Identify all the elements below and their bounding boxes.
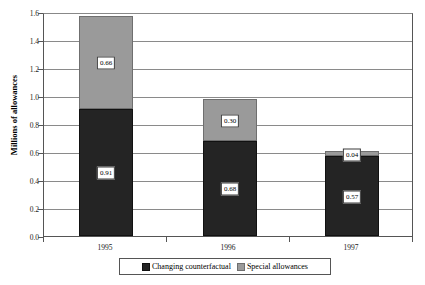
y-tick-label: 0.4 <box>13 177 39 186</box>
y-tick-label: 1.6 <box>13 9 39 18</box>
y-tick-label: 0.6 <box>13 149 39 158</box>
x-tick-label-1995: 1995 <box>75 243 135 252</box>
bar-value-label: 0.91 <box>97 166 115 179</box>
legend-label: Special allowances <box>247 262 308 271</box>
y-tick-label: 0.0 <box>13 233 39 242</box>
bar-segment-special-allowances[interactable]: 0.66 <box>79 16 133 108</box>
plot-area: 0.91 0.66 0.68 0.30 0.57 0.04 <box>43 13 413 237</box>
legend-swatch-gray-icon <box>237 263 245 271</box>
bar-group-1996[interactable]: 0.68 0.30 <box>203 12 257 236</box>
y-tick-label: 1.4 <box>13 37 39 46</box>
bar-value-label: 0.30 <box>221 114 239 127</box>
x-tick-label-1996: 1996 <box>198 243 258 252</box>
bar-segment-changing-counterfactual[interactable]: 0.91 <box>79 109 133 236</box>
x-tick-mark <box>289 237 290 242</box>
legend-label: Changing counterfactual <box>152 262 231 271</box>
x-tick-mark <box>412 237 413 242</box>
bar-group-1995[interactable]: 0.91 0.66 <box>79 12 133 236</box>
bar-segment-changing-counterfactual[interactable]: 0.57 <box>325 156 379 236</box>
bar-segment-special-allowances[interactable]: 0.30 <box>203 99 257 141</box>
x-tick-mark <box>43 237 44 242</box>
bar-value-label: 0.04 <box>343 148 361 161</box>
y-axis-title: Millions of allowances <box>9 35 19 195</box>
y-tick-label: 0.2 <box>13 205 39 214</box>
legend-item-special-allowances[interactable]: Special allowances <box>237 262 308 271</box>
chart-legend: Changing counterfactual Special allowanc… <box>119 258 331 275</box>
x-tick-label-1997: 1997 <box>321 243 381 252</box>
bar-value-label: 0.68 <box>221 182 239 195</box>
bar-segment-special-allowances[interactable]: 0.04 <box>325 151 379 157</box>
y-tick-label: 1.2 <box>13 65 39 74</box>
stacked-bar-chart: Millions of allowances 1.6 1.4 1.2 1.0 0… <box>0 0 425 285</box>
y-tick-label: 1.0 <box>13 93 39 102</box>
x-tick-mark <box>166 237 167 242</box>
bar-segment-changing-counterfactual[interactable]: 0.68 <box>203 141 257 236</box>
legend-swatch-dark-icon <box>142 263 150 271</box>
bar-value-label: 0.57 <box>343 191 361 204</box>
y-tick-label: 0.8 <box>13 121 39 130</box>
bar-group-1997[interactable]: 0.57 0.04 <box>325 12 379 236</box>
legend-item-changing-counterfactual[interactable]: Changing counterfactual <box>142 262 231 271</box>
bar-value-label: 0.66 <box>97 57 115 70</box>
